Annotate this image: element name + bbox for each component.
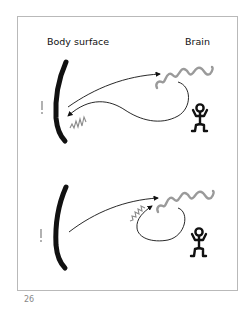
body-surface-curve [56,62,66,141]
internal-loop-arrow [137,206,185,241]
person-figure-icon [191,228,206,256]
panel-bottom [41,187,214,268]
diagram-canvas [0,0,251,313]
afferent-arrow [69,198,158,232]
surface-sensation-squiggle [70,117,86,128]
body-surface-curve [56,187,66,268]
page-number: 26 [24,295,34,304]
person-figure-icon [192,104,207,131]
efferent-loop-arrow [68,82,189,121]
panel-top [42,62,213,141]
afferent-arrow [68,74,160,107]
brain-wave-icon [156,67,212,88]
brain-wave-icon [157,191,213,212]
